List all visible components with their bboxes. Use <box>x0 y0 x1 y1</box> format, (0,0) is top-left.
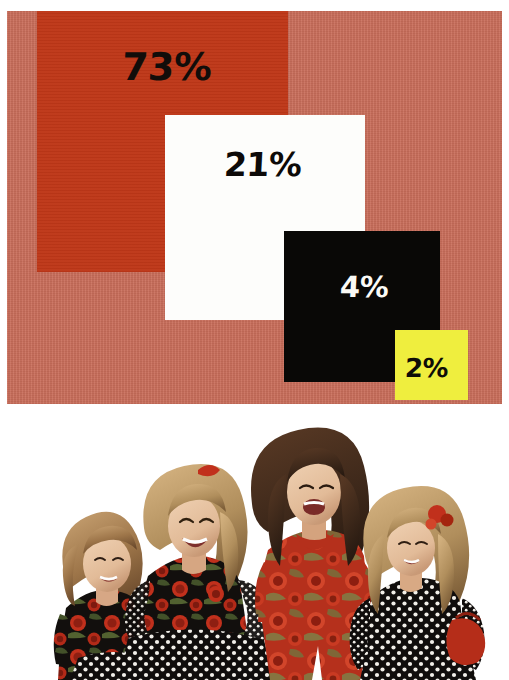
four-children-photo: Photograph of four young girls standing … <box>0 408 509 680</box>
infographic-page: 73% 21% 4% 2% Photograph of four young g… <box>0 0 509 680</box>
square-4-label: 4% <box>339 273 389 302</box>
square-73-label: 73% <box>121 48 212 86</box>
square-21-label: 21% <box>223 148 302 181</box>
square-2-label: 2% <box>404 355 449 381</box>
photo-illustration <box>0 408 509 680</box>
nested-squares-chart: 73% 21% 4% 2% <box>0 0 509 410</box>
